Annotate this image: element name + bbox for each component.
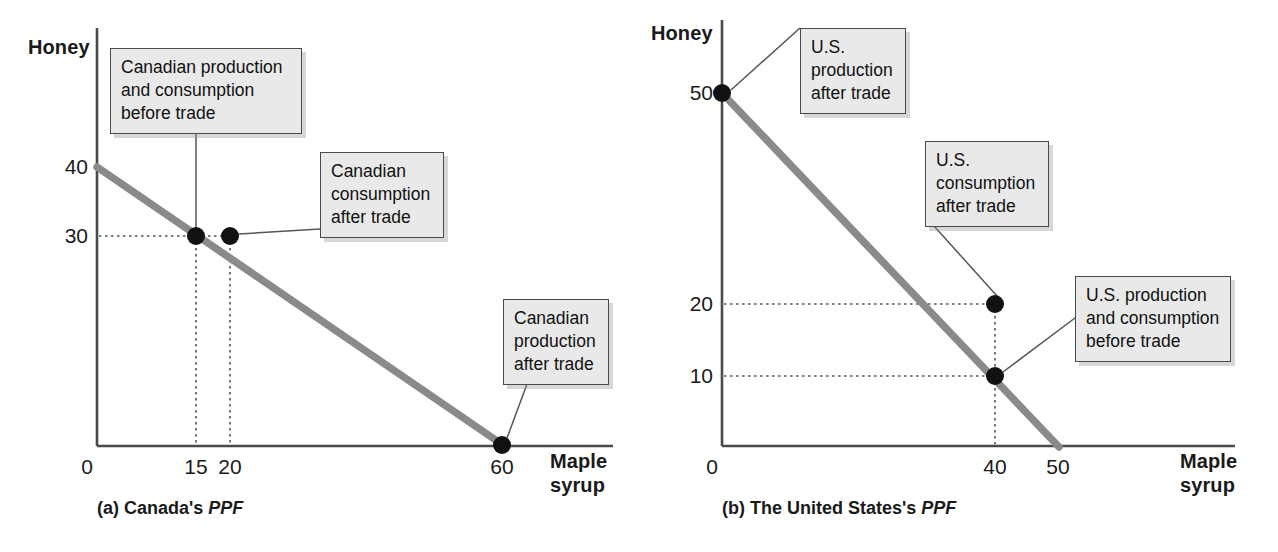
ppf-comparison-figure: Honey Maple syrup 40 30 0 15 20 60 Canad… [0, 0, 1278, 552]
us-caption-ppf: PPF [921, 498, 956, 518]
canada-y-axis-title: Honey [28, 36, 90, 60]
canada-x-axis-title: Maple syrup [550, 450, 607, 497]
callout-us-consumption-after-trade[interactable]: U.S. consumption after trade [925, 141, 1049, 227]
us-point-consumption-after-trade[interactable] [986, 295, 1004, 313]
us-point-before-trade[interactable] [986, 367, 1004, 385]
canada-leader-consumption-after-trade [239, 229, 320, 234]
us-x-axis-title: Maple syrup [1180, 450, 1237, 497]
canada-x-tick-20: 20 [210, 455, 250, 479]
callout-canada-production-after-trade[interactable]: Canadian production after trade [503, 299, 609, 385]
callout-canada-before-trade[interactable]: Canadian production and consumption befo… [110, 48, 302, 134]
canada-y-tick-30: 30 [36, 224, 88, 248]
us-leader-consumption-after-trade [934, 226, 997, 296]
canada-panel-caption: (a) Canada's PPF [97, 498, 243, 519]
callout-canada-consumption-after-trade[interactable]: Canadian consumption after trade [320, 152, 444, 238]
us-y-tick-50: 50 [659, 81, 713, 105]
callout-us-before-trade[interactable]: U.S. production and consumption before t… [1075, 276, 1231, 362]
us-origin-label: 0 [697, 455, 727, 479]
us-leader-production-after-trade [731, 28, 800, 90]
canada-origin-label: 0 [72, 455, 102, 479]
canada-point-production-after-trade[interactable] [493, 436, 511, 454]
panel-canada-ppf: Honey Maple syrup 40 30 0 15 20 60 Canad… [0, 0, 639, 552]
callout-us-production-after-trade[interactable]: U.S. production after trade [800, 28, 906, 114]
canada-point-before-trade[interactable] [187, 227, 205, 245]
canada-caption-ppf: PPF [208, 498, 243, 518]
canada-caption-text: (a) Canada's [97, 498, 208, 518]
us-x-tick-40: 40 [975, 455, 1015, 479]
us-point-production-after-trade[interactable] [713, 84, 731, 102]
canada-leader-production-after-trade [507, 384, 527, 438]
canada-x-tick-60: 60 [482, 455, 522, 479]
canada-point-consumption-after-trade[interactable] [221, 227, 239, 245]
us-caption-text: (b) The United States's [722, 498, 921, 518]
us-y-axis-title: Honey [651, 22, 713, 46]
us-y-tick-10: 10 [659, 364, 713, 388]
us-x-tick-50: 50 [1038, 455, 1078, 479]
panel-us-ppf: Honey Maple syrup 50 20 10 0 40 50 U.S. … [639, 0, 1278, 552]
us-leader-before-trade [1003, 318, 1075, 372]
us-y-tick-20: 20 [659, 292, 713, 316]
us-panel-caption: (b) The United States's PPF [722, 498, 956, 519]
canada-y-tick-40: 40 [36, 155, 88, 179]
